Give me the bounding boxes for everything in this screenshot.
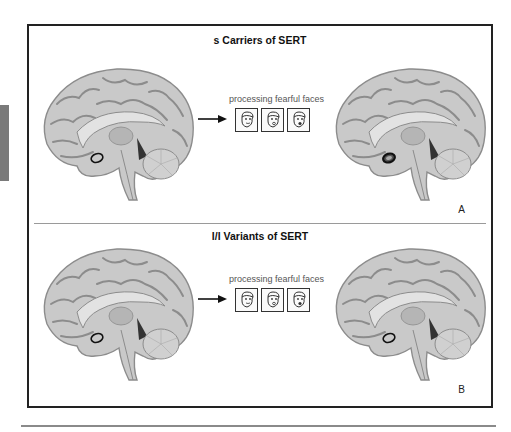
fearful-face-icon bbox=[261, 108, 284, 132]
panel-b-title: l/l Variants of SERT bbox=[29, 230, 491, 242]
face-stimuli bbox=[235, 108, 310, 132]
panel-a: s Carriers of SERT processing fearful fa… bbox=[29, 26, 491, 223]
panel-a-title: s Carriers of SERT bbox=[29, 34, 491, 46]
fearful-face-icon bbox=[261, 288, 284, 312]
fearful-face-icon bbox=[287, 288, 310, 312]
page-side-tab bbox=[0, 105, 9, 181]
panel-label-a: A bbox=[458, 204, 465, 215]
brain-after-icon bbox=[329, 64, 491, 202]
brain-after-icon bbox=[329, 244, 491, 382]
bottom-rule bbox=[21, 425, 496, 427]
face-stimuli bbox=[235, 288, 310, 312]
panel-b: l/l Variants of SERT processing fearful … bbox=[29, 224, 491, 406]
stimulus-caption: processing fearful faces bbox=[229, 274, 324, 284]
fearful-face-icon bbox=[235, 288, 258, 312]
arrow-right-icon bbox=[198, 294, 228, 304]
figure-frame: s Carriers of SERT processing fearful fa… bbox=[27, 24, 493, 408]
brain-before-icon bbox=[37, 244, 199, 382]
fearful-face-icon bbox=[287, 108, 310, 132]
brain-before-icon bbox=[37, 64, 199, 202]
arrow-right-icon bbox=[198, 114, 228, 124]
panel-label-b: B bbox=[458, 384, 465, 395]
fearful-face-icon bbox=[235, 108, 258, 132]
stimulus-caption: processing fearful faces bbox=[229, 94, 324, 104]
